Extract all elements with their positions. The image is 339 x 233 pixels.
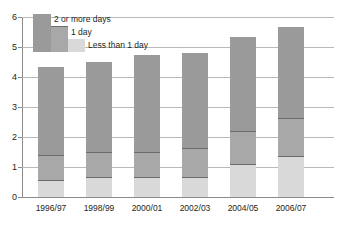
bar-group[interactable] (230, 37, 256, 197)
y-axis-tick-label: 2 (3, 133, 17, 142)
bar-segment-less-than-one-day[interactable] (38, 181, 64, 197)
bar-group[interactable] (86, 62, 112, 197)
bar-segment-one-day[interactable] (86, 152, 112, 178)
bar-segment-two-or-more-days[interactable] (134, 55, 160, 152)
bar-segment-one-day[interactable] (278, 118, 304, 157)
chart-legend: 2 or more days 1 day Less than 1 day (33, 14, 193, 54)
bar-segment-one-day[interactable] (182, 148, 208, 178)
bar-group[interactable] (182, 53, 208, 197)
bar-segment-less-than-one-day[interactable] (278, 157, 304, 197)
bar-segment-two-or-more-days[interactable] (182, 53, 208, 148)
stacked-bar-chart: 6 5 4 3 2 1 0 (0, 0, 339, 233)
y-axis-tick-label: 3 (3, 103, 17, 112)
y-axis-tick-label: 5 (3, 43, 17, 52)
bar-segment-one-day[interactable] (134, 152, 160, 178)
legend-swatch-one-day (51, 26, 68, 52)
bar-segment-one-day[interactable] (38, 155, 64, 181)
legend-label-two-or-more-days: 2 or more days (54, 14, 111, 24)
bar-group[interactable] (278, 27, 304, 197)
bar-segment-less-than-one-day[interactable] (230, 165, 256, 197)
bar-segment-two-or-more-days[interactable] (86, 62, 112, 152)
y-axis-tick-label: 1 (3, 163, 17, 172)
bar-segment-less-than-one-day[interactable] (86, 178, 112, 197)
bar-segment-two-or-more-days[interactable] (38, 67, 64, 155)
bar-segment-less-than-one-day[interactable] (134, 178, 160, 197)
bar-group[interactable] (38, 67, 64, 197)
y-axis-tick-label: 0 (3, 193, 17, 202)
legend-label-one-day: 1 day (71, 27, 92, 37)
bar-segment-one-day[interactable] (230, 131, 256, 165)
bar-segment-less-than-one-day[interactable] (182, 178, 208, 197)
y-axis-tick-label: 4 (3, 73, 17, 82)
y-axis-labels: 6 5 4 3 2 1 0 (0, 0, 17, 233)
legend-label-less-than-one-day: Less than 1 day (88, 40, 148, 50)
bar-group[interactable] (134, 55, 160, 197)
legend-swatch-less-than-one-day (68, 39, 85, 52)
y-axis-tick-label: 6 (3, 13, 17, 22)
x-axis-label: 2006/07 (261, 203, 321, 213)
bar-segment-two-or-more-days[interactable] (278, 27, 304, 118)
x-axis-line (22, 197, 334, 198)
legend-swatch-two-or-more-days (33, 14, 51, 52)
bar-segment-two-or-more-days[interactable] (230, 37, 256, 131)
